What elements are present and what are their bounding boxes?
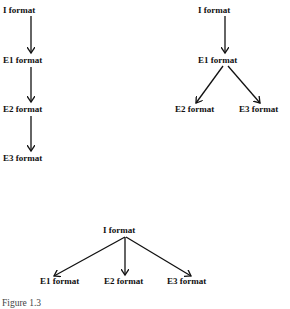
node-i-format: I format bbox=[198, 5, 230, 15]
node-e3-format: E3 format bbox=[239, 104, 278, 114]
node-e1-format: E1 format bbox=[198, 55, 237, 65]
node-i-format: I format bbox=[103, 225, 135, 235]
node-e2-format: E2 format bbox=[3, 104, 42, 114]
node-e2-format: E2 format bbox=[175, 104, 214, 114]
figure-caption: Figure 1.3 bbox=[2, 298, 41, 308]
node-e2-format: E2 format bbox=[104, 276, 143, 286]
node-e1-format: E1 format bbox=[40, 276, 79, 286]
node-e1-format: E1 format bbox=[3, 55, 42, 65]
node-e3-format: E3 format bbox=[167, 276, 206, 286]
node-i-format: I format bbox=[3, 5, 35, 15]
node-e3-format: E3 format bbox=[3, 153, 42, 163]
arrows bbox=[0, 0, 290, 309]
